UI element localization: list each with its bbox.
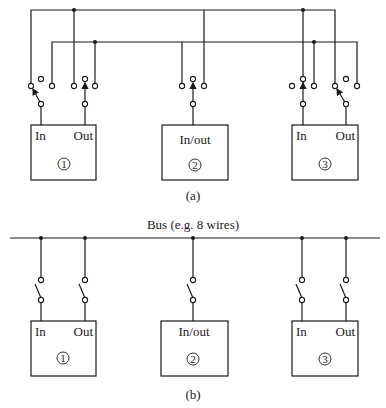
unit1-in-switch bbox=[28, 76, 54, 125]
bus-diagram-figure: In Out 1 In/out 2 In Out 3 (a) Bus (e.g.… bbox=[0, 0, 386, 408]
unit3-in-switch-b bbox=[296, 236, 305, 321]
unit-1-box-b: In Out 1 bbox=[31, 321, 96, 376]
junction-dot bbox=[72, 8, 76, 12]
unit1-out-switch-b bbox=[79, 236, 88, 321]
unit3-in-switch bbox=[289, 76, 316, 125]
unit-3-box-b: In Out 3 bbox=[292, 321, 358, 376]
port-label-out: Out bbox=[74, 324, 94, 339]
diagram-a-point-to-point: In Out 1 In/out 2 In Out 3 (a) bbox=[28, 8, 359, 203]
unit2-inout-switch bbox=[179, 76, 206, 125]
unit-number: 3 bbox=[322, 158, 328, 170]
unit-2-box-b: In/out 2 bbox=[161, 321, 228, 376]
unit-number: 2 bbox=[192, 159, 198, 171]
port-label-out: Out bbox=[336, 128, 356, 143]
wire-top bbox=[31, 10, 335, 86]
unit2-inout-switch-b bbox=[187, 236, 196, 321]
port-label-in: In bbox=[35, 128, 46, 143]
unit-number: 3 bbox=[322, 353, 328, 365]
port-label-out: Out bbox=[336, 324, 356, 339]
port-label-inout: In/out bbox=[178, 324, 209, 339]
port-label-in: In bbox=[296, 324, 307, 339]
diagram-b-bus: Bus (e.g. 8 wires) bbox=[10, 217, 380, 402]
port-label-in: In bbox=[296, 128, 307, 143]
unit-number: 1 bbox=[61, 158, 67, 170]
bus-label: Bus (e.g. 8 wires) bbox=[147, 217, 239, 232]
port-label-inout: In/out bbox=[179, 132, 210, 147]
unit-number: 2 bbox=[190, 353, 196, 365]
unit3-out-switch bbox=[332, 76, 359, 125]
unit-2-box: In/out 2 bbox=[162, 125, 228, 180]
unit-3-box: In Out 3 bbox=[292, 125, 358, 180]
unit1-in-switch-b bbox=[35, 236, 44, 321]
junction-dot bbox=[301, 8, 305, 12]
junction-dot bbox=[312, 40, 316, 44]
port-label-in: In bbox=[35, 324, 46, 339]
unit1-out-switch bbox=[71, 76, 97, 125]
unit-number: 1 bbox=[60, 352, 66, 364]
caption-b: (b) bbox=[185, 387, 200, 402]
port-label-out: Out bbox=[74, 128, 94, 143]
caption-a: (a) bbox=[186, 188, 200, 203]
junction-dot bbox=[93, 40, 97, 44]
unit-1-box: In Out 1 bbox=[31, 125, 96, 180]
unit3-out-switch-b bbox=[340, 236, 349, 321]
